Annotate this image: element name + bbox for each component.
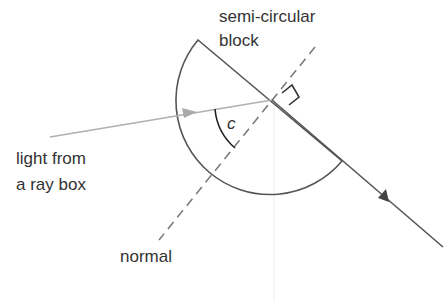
reflected-ray [272,100,443,247]
reflected-arrow-icon [378,189,389,202]
incident-ray [50,100,272,137]
block-label-line2: block [219,31,259,50]
angle-label: c [227,114,236,133]
normal-line [159,47,315,240]
normal-label: normal [120,247,172,266]
semi-circular-block [176,40,342,195]
right-angle-marker [282,85,299,105]
diagram: semi-circular block light from a ray box… [0,0,447,304]
incident-arrow-icon [182,108,197,118]
source-label-line1: light from [16,149,86,168]
block-label-line1: semi-circular [219,7,316,26]
source-label-line2: a ray box [16,175,86,194]
